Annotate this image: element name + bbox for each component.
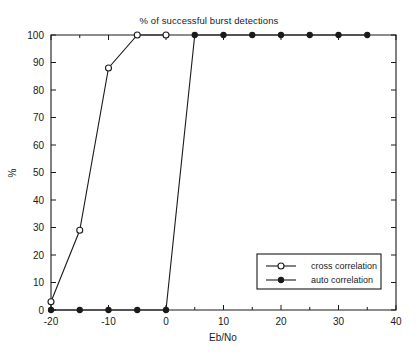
y-tick-label: 30 [33,222,45,233]
data-point [192,32,197,37]
legend-label: auto correlation [311,275,373,285]
data-point [278,32,283,37]
x-axis-title: Eb/No [209,332,237,343]
legend-label: cross correlation [311,261,377,271]
series-cross-correlation [48,32,169,305]
data-point [163,307,168,312]
y-tick-label: 0 [38,305,44,316]
y-tick-label: 50 [33,167,45,178]
data-point [135,307,140,312]
x-tick-label: -10 [101,316,116,327]
data-point [77,307,82,312]
y-axis-tick-labels: 0102030405060708090100 [27,30,44,316]
data-point [134,32,140,38]
data-point [48,307,53,312]
y-tick-label: 100 [27,30,44,41]
data-point [106,65,112,71]
data-point [221,32,226,37]
y-tick-label: 10 [33,277,45,288]
x-tick-label: 40 [390,316,402,327]
data-point [307,32,312,37]
chart-figure: % of successful burst detections 0102030… [0,0,418,355]
y-tick-label: 40 [33,195,45,206]
data-point [365,32,370,37]
x-tick-label: -20 [44,316,59,327]
y-tick-label: 70 [33,112,45,123]
data-point [163,32,169,38]
data-point [48,299,54,305]
series-line [51,35,166,302]
x-axis-tick-labels: -20-10010203040 [44,316,402,327]
x-tick-label: 20 [275,316,287,327]
y-tick-label: 90 [33,57,45,68]
x-tick-label: 30 [333,316,345,327]
y-tick-label: 20 [33,250,45,261]
chart-legend[interactable]: cross correlationauto correlation [257,254,381,289]
data-point [106,307,111,312]
y-tick-label: 60 [33,140,45,151]
legend-swatch-marker [278,263,284,269]
x-tick-label: 10 [218,316,230,327]
data-point [336,32,341,37]
legend-swatch-marker [278,277,283,282]
y-axis-title: % [7,168,18,177]
data-point [77,227,83,233]
y-tick-label: 80 [33,85,45,96]
data-point [250,32,255,37]
x-tick-label: 0 [163,316,169,327]
plot-area: 0102030405060708090100 -20-10010203040 E… [0,0,418,355]
